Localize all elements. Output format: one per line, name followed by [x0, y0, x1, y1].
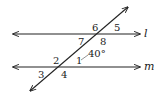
- parallel-lines-diagram: l m 6 5 7 8 2 1 3 4 40°: [0, 0, 161, 101]
- line-l-label: l: [144, 27, 148, 40]
- angle-3-label: 3: [38, 69, 44, 80]
- angle-1-measure: 40°: [88, 48, 106, 59]
- angle-5-label: 5: [114, 22, 120, 33]
- angle-4-label: 4: [61, 69, 67, 80]
- angle-8-label: 8: [100, 36, 106, 47]
- angle-7-label: 7: [78, 36, 84, 47]
- angle-1-label: 1: [76, 55, 82, 66]
- transversal: [30, 7, 128, 91]
- line-m-label: m: [144, 60, 154, 73]
- angle-2-label: 2: [53, 55, 59, 66]
- angle-6-label: 6: [92, 22, 98, 33]
